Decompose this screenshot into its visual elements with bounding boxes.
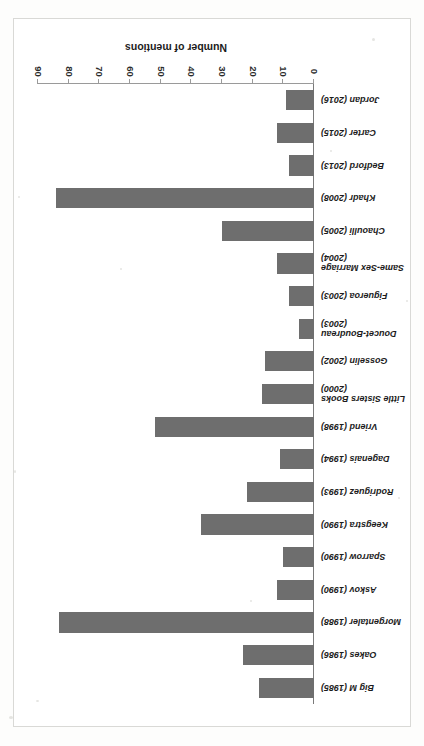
bar-row: Gosselin (2002): [38, 351, 314, 371]
bar: [222, 221, 314, 241]
bar: [262, 384, 314, 404]
scan-speck: [120, 268, 122, 270]
bar: [243, 645, 314, 665]
axis-tick: [252, 79, 253, 84]
axis-tick: [37, 79, 38, 84]
bar-row: Rodriguez (1993): [38, 482, 314, 502]
bar: [286, 90, 314, 110]
bar-row: Vriend (1998): [38, 417, 314, 437]
axis-tick-label: 20: [247, 66, 258, 77]
bar: [283, 547, 314, 567]
category-label: Askov (1990): [321, 585, 407, 595]
scan-speck: [18, 196, 20, 198]
axis-tick-label: 70: [94, 66, 105, 77]
x-axis-title: Number of mentions: [125, 42, 227, 54]
category-label: Doucet-Boudreau (2003): [321, 319, 407, 339]
category-label: Vriend (1998): [321, 422, 407, 432]
bar: [259, 678, 314, 698]
axis-tick-label: 50: [155, 66, 166, 77]
scan-speck: [406, 300, 408, 302]
category-label: Khadr (2008): [321, 193, 407, 203]
scan-speck: [330, 150, 332, 152]
axis-tick-label: 40: [186, 66, 197, 77]
scan-speck: [14, 470, 16, 473]
bar: [56, 188, 314, 208]
axis-tick-label: 60: [125, 66, 136, 77]
axis-tick: [68, 79, 69, 84]
axis-tick-label: 0: [309, 69, 320, 74]
axis-tick-label: 90: [33, 66, 44, 77]
bar-row: Big M (1985): [38, 678, 314, 698]
scan-speck: [250, 600, 252, 602]
category-label: Same-Sex Marriage (2004): [321, 253, 407, 273]
bar: [155, 417, 314, 437]
bar-row: Figueroa (2003): [38, 286, 314, 306]
axis-tick: [313, 79, 314, 84]
category-label: Gosselin (2002): [321, 356, 407, 366]
axis-tick: [98, 79, 99, 84]
axis-tick: [190, 79, 191, 84]
bar-row: Askov (1990): [38, 580, 314, 600]
axis-tick-label: 80: [63, 66, 74, 77]
bar: [247, 482, 314, 502]
category-label: Jordan (2016): [321, 95, 407, 105]
category-label: Morgentaler (1988): [321, 617, 407, 627]
axis-tick: [221, 79, 222, 84]
axis-tick: [282, 79, 283, 84]
bar-row: Sparrow (1990): [38, 547, 314, 567]
bar: [59, 612, 314, 632]
scan-speck: [372, 38, 375, 41]
bar-row: Dagenais (1994): [38, 449, 314, 469]
category-label: Keegstra (1990): [321, 520, 407, 530]
bar-row: Little Sisters Books (2000): [38, 384, 314, 404]
bar-row: Morgentaler (1988): [38, 612, 314, 632]
category-label: Chaoulli (2005): [321, 226, 407, 236]
bar-row: Same-Sex Marriage (2004): [38, 253, 314, 273]
bar: [299, 319, 314, 339]
chart-figure: 0102030405060708090 Big M (1985)Oakes (1…: [0, 0, 424, 746]
category-label: Rodriguez (1993): [321, 487, 407, 497]
category-label: Oakes (1986): [321, 650, 407, 660]
bar: [277, 253, 314, 273]
tick-axis-line: [38, 83, 314, 84]
category-label: Bedford (2013): [321, 161, 407, 171]
bar-row: Bedford (2013): [38, 155, 314, 175]
scan-speck: [36, 700, 39, 702]
bar-row: Carter (2015): [38, 123, 314, 143]
plot-area: 0102030405060708090 Big M (1985)Oakes (1…: [38, 84, 314, 704]
bar-row: Doucet-Boudreau (2003): [38, 319, 314, 339]
bar: [265, 351, 314, 371]
bar: [280, 449, 314, 469]
bar: [277, 123, 314, 143]
bar: [201, 514, 314, 534]
bar-row: Jordan (2016): [38, 90, 314, 110]
bar-row: Khadr (2008): [38, 188, 314, 208]
bar-row: Chaoulli (2005): [38, 221, 314, 241]
axis-tick-label: 30: [217, 66, 228, 77]
axis-tick: [129, 79, 130, 84]
category-label: Dagenais (1994): [321, 454, 407, 464]
category-label: Figueroa (2003): [321, 291, 407, 301]
scan-speck: [9, 716, 13, 719]
bar: [277, 580, 314, 600]
bar: [289, 286, 314, 306]
axis-tick-label: 10: [278, 66, 289, 77]
screenshot-page: 0102030405060708090 Big M (1985)Oakes (1…: [0, 0, 424, 746]
category-label: Carter (2015): [321, 128, 407, 138]
category-label: Big M (1985): [321, 683, 407, 693]
bar: [289, 155, 314, 175]
axis-tick: [160, 79, 161, 84]
bar-chart: 0102030405060708090 Big M (1985)Oakes (1…: [14, 19, 410, 726]
category-label: Sparrow (1990): [321, 552, 407, 562]
bar-row: Oakes (1986): [38, 645, 314, 665]
bar-row: Keegstra (1990): [38, 514, 314, 534]
category-label: Little Sisters Books (2000): [321, 384, 407, 404]
scan-speck: [398, 497, 400, 499]
